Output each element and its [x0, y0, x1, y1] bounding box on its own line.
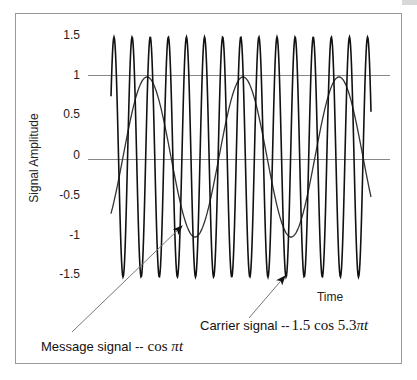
- message-annotation: Message signal --cos πt: [41, 338, 184, 354]
- ytick-1: 1: [73, 68, 80, 82]
- chart-figure: 1.5 1 0.5 0 -0.5 -1 -1.5 Signal Amplitud…: [0, 0, 417, 380]
- carrier-arrow: [249, 276, 285, 318]
- ytick-1.5: 1.5: [63, 28, 80, 42]
- ytick-0.5: 0.5: [63, 107, 80, 121]
- carrier-annotation: Carrier signal --1.5 cos 5.3πt: [200, 317, 369, 333]
- ytick-neg0.5: -0.5: [59, 188, 80, 202]
- ytick-0: 0: [73, 148, 80, 162]
- x-axis-label: Time: [317, 290, 344, 304]
- ytick-neg1.5: -1.5: [59, 267, 80, 281]
- message-signal-line: [111, 77, 371, 237]
- ytick-neg1: -1: [69, 228, 80, 242]
- message-arrow: [72, 226, 182, 332]
- carrier-signal-line: [111, 37, 371, 277]
- y-axis-label: Signal Amplitude: [27, 113, 41, 203]
